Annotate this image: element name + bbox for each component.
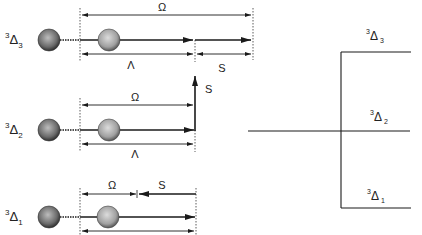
energy-level-diagram: 3Δ3 3Δ2 3Δ1 xyxy=(248,28,411,208)
level-label-delta-1: 3Δ1 xyxy=(367,188,385,204)
state-label-delta-1: 3Δ1 xyxy=(5,208,23,227)
nucleus-a xyxy=(38,206,60,228)
state-label-delta-2: 3Δ2 xyxy=(5,121,23,140)
row-delta-2: 3Δ2 Ω S Λ xyxy=(5,76,212,160)
nucleus-a xyxy=(38,29,60,51)
s-label: S xyxy=(218,62,225,74)
lambda-label: Λ xyxy=(131,148,139,160)
row-delta-1: 3Δ1 Ω S xyxy=(5,179,196,235)
omega-label: Ω xyxy=(131,91,139,103)
s-label: S xyxy=(205,83,212,95)
nucleus-b xyxy=(98,29,120,51)
level-label-delta-3: 3Δ3 xyxy=(366,28,384,44)
level-label-delta-2: 3Δ2 xyxy=(370,109,388,125)
s-label: S xyxy=(158,179,165,191)
nucleus-b xyxy=(98,119,120,141)
omega-label: Ω xyxy=(158,1,166,13)
lambda-label: Λ xyxy=(127,59,135,71)
nucleus-a xyxy=(38,119,60,141)
row-delta-3: 3Δ3 Ω Λ S xyxy=(5,1,253,74)
term-diagram: 3Δ3 Ω Λ S 3Δ2 Ω S Λ 3Δ1 xyxy=(0,0,422,235)
state-label-delta-3: 3Δ3 xyxy=(5,31,23,50)
nucleus-b xyxy=(97,206,119,228)
omega-label: Ω xyxy=(108,179,116,191)
